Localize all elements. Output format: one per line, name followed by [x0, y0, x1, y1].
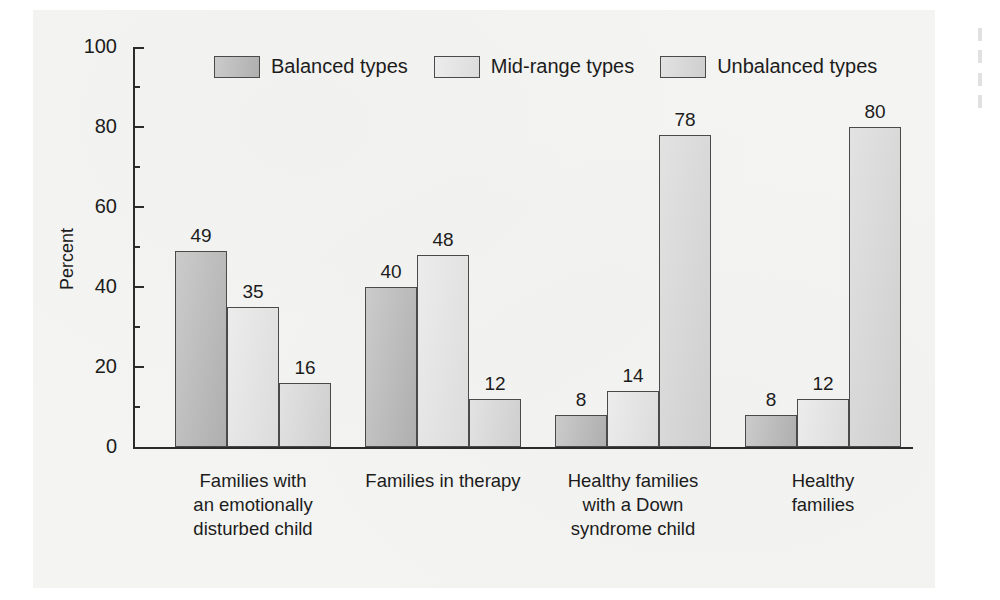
bar — [745, 415, 797, 447]
bar — [555, 415, 607, 447]
bar-value-label: 16 — [294, 357, 315, 379]
bar-value-label: 40 — [380, 261, 401, 283]
y-tick-label: 20 — [57, 356, 117, 376]
y-tick-label: 40 — [57, 276, 117, 296]
bar — [607, 391, 659, 447]
bar — [365, 287, 417, 447]
y-tick-label: 80 — [57, 116, 117, 136]
y-tick-minor — [133, 166, 140, 168]
y-tick-label: 0 — [57, 436, 117, 456]
bar-value-label: 8 — [766, 389, 777, 411]
y-tick-minor — [133, 86, 140, 88]
category-label: Families with an emotionally disturbed c… — [193, 469, 312, 541]
bar — [797, 399, 849, 447]
bar — [659, 135, 711, 447]
bar-value-label: 8 — [576, 389, 587, 411]
x-axis-baseline — [133, 447, 913, 449]
y-tick-minor — [133, 246, 140, 248]
bar — [417, 255, 469, 447]
y-axis-top-cap — [133, 47, 144, 49]
bar-value-label: 78 — [674, 109, 695, 131]
category-label: Families in therapy — [365, 469, 520, 493]
bar — [279, 383, 331, 447]
y-tick-label: 100 — [57, 36, 117, 56]
y-tick-major — [133, 206, 144, 208]
category-label: Healthy families — [778, 469, 868, 517]
bar-value-label: 35 — [242, 281, 263, 303]
y-tick-minor — [133, 406, 140, 408]
y-tick-major — [133, 286, 144, 288]
y-tick-major — [133, 366, 144, 368]
plot-area: 020406080100 4935164048128147881280 Fami… — [133, 47, 913, 447]
bar — [227, 307, 279, 447]
bar-chart: Balanced typesMid-range typesUnbalanced … — [0, 0, 1000, 600]
y-tick-minor — [133, 326, 140, 328]
bar-value-label: 49 — [190, 225, 211, 247]
bar — [469, 399, 521, 447]
bar — [849, 127, 901, 447]
category-label: Healthy families with a Down syndrome ch… — [568, 469, 699, 541]
bar-value-label: 12 — [484, 373, 505, 395]
bar-value-label: 80 — [864, 101, 885, 123]
bar-value-label: 48 — [432, 229, 453, 251]
y-tick-label: 60 — [57, 196, 117, 216]
bar — [175, 251, 227, 447]
bar-value-label: 14 — [622, 365, 643, 387]
bar-value-label: 12 — [812, 373, 833, 395]
y-tick-major — [133, 126, 144, 128]
